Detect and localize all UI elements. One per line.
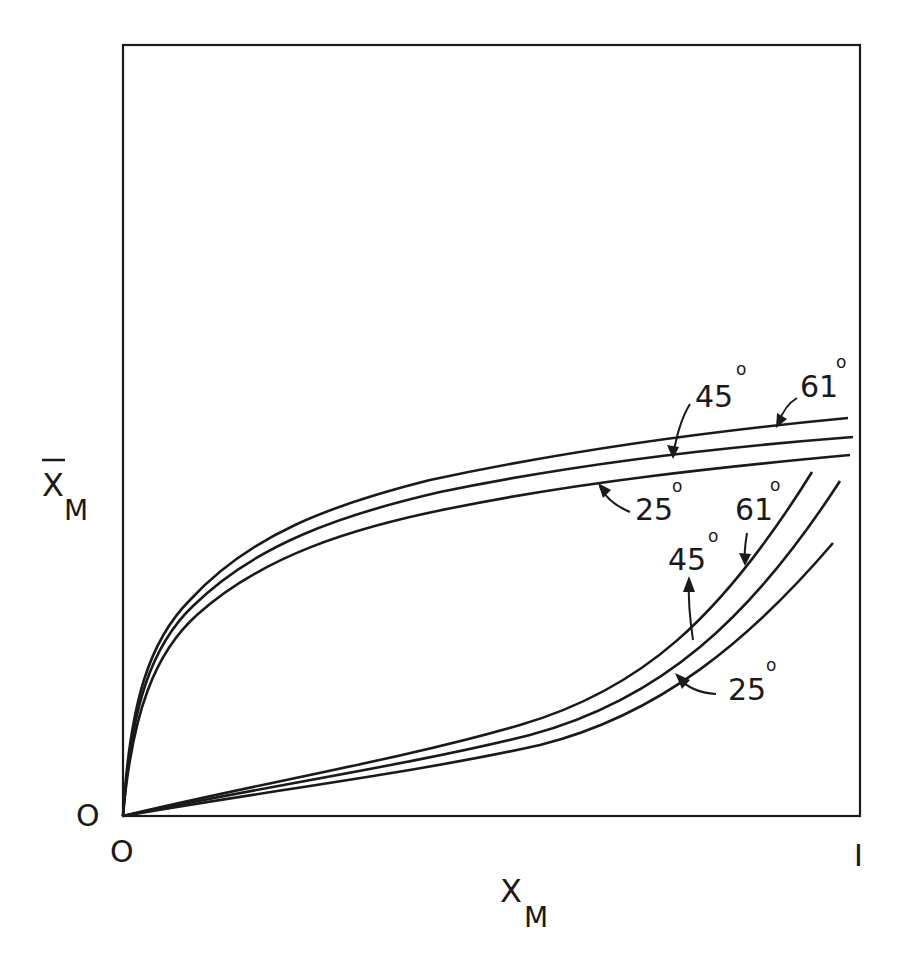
arrowhead-upper-45 [667,445,679,459]
x-axis-title: X M [500,872,548,934]
chart-figure: 45 o 61 o 25 o 61 o 45 o 25 o O O I X M … [0,0,911,967]
degree-lower-61: o [770,475,780,495]
x-tick-1: I [854,838,863,873]
degree-upper-61: o [836,352,846,372]
x-axis-label-main: X [500,872,522,910]
degree-upper-25: o [672,476,682,496]
curve-lower-61 [123,472,812,816]
curve-lower-25 [123,543,833,816]
arrowhead-lower-45 [683,576,695,592]
y-axis-label-main: X [42,466,64,504]
tick-labels: O O I [76,798,863,873]
degree-lower-25: o [766,655,776,675]
y-axis-title: X M [42,460,88,527]
label-lower-45: 45 [668,542,706,577]
annotation-labels: 45 o 61 o 25 o 61 o 45 o 25 o [635,352,846,707]
degree-lower-45: o [708,526,718,546]
label-lower-61: 61 [735,492,773,527]
x-axis-label-sub: M [524,901,548,934]
y-tick-0: O [76,798,100,833]
label-upper-45: 45 [695,379,733,414]
label-upper-25: 25 [635,492,673,527]
chart-svg: 45 o 61 o 25 o 61 o 45 o 25 o O O I X M … [0,0,911,967]
label-lower-25: 25 [728,672,766,707]
degree-upper-45: o [736,359,746,379]
arrowhead-upper-25 [598,483,611,498]
curve-lower-45 [123,481,840,816]
x-tick-0: O [110,834,134,869]
label-upper-61: 61 [800,369,838,404]
lower-curves [123,472,840,816]
y-axis-label-sub: M [64,494,88,527]
